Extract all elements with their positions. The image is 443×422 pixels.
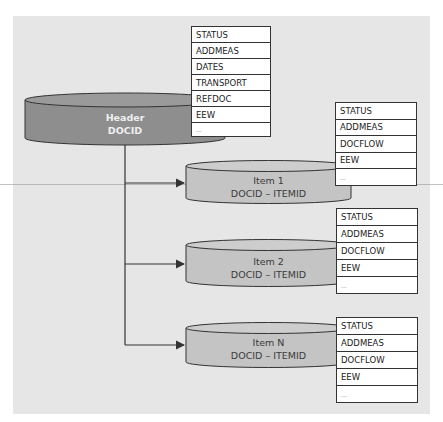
field-row: ADDMEAS (336, 120, 416, 137)
field-row: STATUS (337, 209, 417, 226)
field-row: TRANSPORT (192, 75, 270, 91)
field-row: ... (337, 277, 417, 293)
field-row: ... (192, 123, 270, 136)
item-1-label: Item 1 DOCID – ITEMID (186, 174, 351, 200)
connector-lines (125, 143, 184, 345)
field-row: STATUS (337, 318, 417, 335)
item-n-field-table: STATUS ADDMEAS DOCFLOW EEW ... (336, 317, 418, 403)
item-1-title: Item 1 (186, 174, 351, 187)
field-row: ADDMEAS (337, 335, 417, 352)
item-n-title: Item N (186, 336, 351, 349)
header-field-table: STATUS ADDMEAS DATES TRANSPORT REFDOC EE… (191, 26, 271, 137)
field-row: ... (337, 386, 417, 402)
item-2-key: DOCID – ITEMID (186, 268, 351, 281)
field-row: STATUS (336, 103, 416, 120)
item-n-key: DOCID – ITEMID (186, 349, 351, 362)
field-row: DOCFLOW (337, 243, 417, 260)
field-row: EEW (336, 153, 416, 170)
item-2-label: Item 2 DOCID – ITEMID (186, 255, 351, 281)
field-row: STATUS (192, 27, 270, 43)
item-2-field-table: STATUS ADDMEAS DOCFLOW EEW ... (336, 208, 418, 294)
field-row: ... (336, 169, 416, 185)
field-row: DATES (192, 59, 270, 75)
item-n-label: Item N DOCID – ITEMID (186, 336, 351, 362)
field-row: EEW (337, 369, 417, 386)
field-row: ADDMEAS (337, 226, 417, 243)
item-1-field-table: STATUS ADDMEAS DOCFLOW EEW ... (335, 102, 417, 186)
field-row: DOCFLOW (336, 136, 416, 153)
field-row: EEW (192, 107, 270, 123)
field-row: DOCFLOW (337, 352, 417, 369)
item-2-title: Item 2 (186, 255, 351, 268)
field-row: ADDMEAS (192, 43, 270, 59)
field-row: REFDOC (192, 91, 270, 107)
item-1-key: DOCID – ITEMID (186, 187, 351, 200)
field-row: EEW (337, 260, 417, 277)
